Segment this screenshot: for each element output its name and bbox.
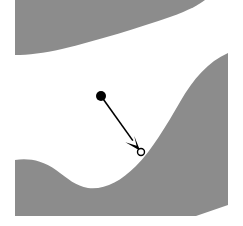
figure-canvas xyxy=(0,0,243,226)
annotation-end-open-circle xyxy=(138,149,145,156)
figure-svg xyxy=(0,0,243,226)
annotation-start-dot xyxy=(96,91,106,101)
